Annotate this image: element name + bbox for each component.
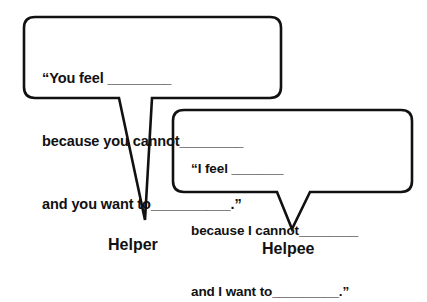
helpee-label: Helpee	[262, 240, 314, 258]
helper-line-feel: “You feel ________	[42, 68, 243, 89]
helpee-line-feel: “I feel _______	[191, 159, 358, 180]
helper-label: Helper	[108, 236, 158, 254]
helpee-line-want: and I want to_________.”	[191, 282, 358, 302]
helpee-line-cannot: because I cannot________	[191, 221, 358, 242]
helpee-bubble-text: “I feel _______ because I cannot________…	[191, 118, 358, 302]
